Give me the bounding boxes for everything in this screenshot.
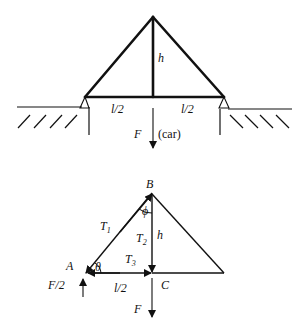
- ground-left: [17, 107, 89, 135]
- truss-bridge-diagram: h l/2 l/2 F (car): [17, 17, 292, 148]
- label-left-half-span: l/2: [111, 102, 124, 116]
- label-t3: T3: [125, 252, 136, 268]
- truss-members: [85, 17, 224, 97]
- label-theta: θ: [95, 260, 101, 274]
- label-t2: T2: [136, 231, 147, 247]
- ground-right: [220, 109, 292, 135]
- label-force: F: [133, 127, 142, 141]
- support-right: [219, 97, 229, 108]
- label-right-half-span: l/2: [181, 102, 194, 116]
- label-half-span: l/2: [114, 281, 127, 295]
- free-body-diagram: B A C T1 T2 T3 h l/2 θ ϕ F/2 F: [47, 177, 224, 317]
- diagram-canvas: h l/2 l/2 F (car) B A C T1 T2 T3 h l/2: [0, 0, 307, 321]
- label-phi: ϕ: [142, 204, 148, 218]
- label-reaction: F/2: [47, 278, 65, 292]
- label-force-fbd: F: [133, 302, 142, 316]
- label-t1: T1: [100, 219, 111, 235]
- label-height-fbd: h: [157, 228, 163, 242]
- support-left: [80, 97, 89, 108]
- label-node-a: A: [65, 259, 74, 273]
- label-node-b: B: [146, 177, 154, 191]
- label-node-c: C: [161, 278, 170, 292]
- label-height: h: [158, 51, 164, 65]
- label-force-note: (car): [158, 127, 181, 141]
